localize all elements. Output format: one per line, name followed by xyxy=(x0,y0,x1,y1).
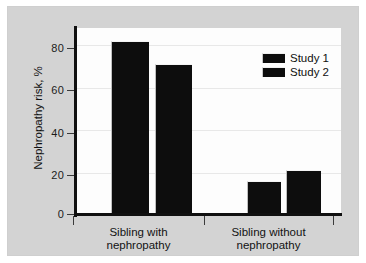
y-tick-label-0: 0 xyxy=(24,208,64,220)
chart-figure: Study 1 Study 2 80 60 40 20 xyxy=(0,0,366,263)
x-category-label-line-2: nephropathy xyxy=(204,239,333,252)
bar-study2-sibling-without-nephropathy xyxy=(286,170,321,215)
y-tick-mark-60 xyxy=(67,90,74,91)
legend-label-study-1: Study 1 xyxy=(290,52,329,64)
x-category-label-line-2: nephropathy xyxy=(73,239,204,252)
y-tick-label-40: 40 xyxy=(24,127,64,139)
y-axis-title: Nephropathy risk, % xyxy=(32,48,44,188)
x-axis-line xyxy=(74,213,342,216)
figure-panel: Study 1 Study 2 80 60 40 20 xyxy=(8,7,358,255)
x-category-label-line-1: Sibling without xyxy=(204,226,333,239)
legend-item-study-2: Study 2 xyxy=(262,66,338,78)
legend-swatch-study-1 xyxy=(262,53,285,63)
x-tick-mark-right xyxy=(333,216,334,225)
legend-swatch-study-2 xyxy=(262,67,285,77)
y-tick-label-80: 80 xyxy=(24,42,64,54)
plot-area: Study 1 Study 2 xyxy=(76,28,341,215)
y-tick-mark-40 xyxy=(67,133,74,134)
bar-study1-sibling-with-nephropathy xyxy=(111,41,149,215)
y-tick-mark-80 xyxy=(67,48,74,49)
x-category-label-sibling-without-nephropathy: Sibling without nephropathy xyxy=(204,226,333,252)
y-tick-label-20: 20 xyxy=(24,169,64,181)
x-tick-mark-left xyxy=(73,216,74,225)
x-category-label-sibling-with-nephropathy: Sibling with nephropathy xyxy=(73,226,204,252)
legend-label-study-2: Study 2 xyxy=(290,66,329,78)
chart-legend: Study 1 Study 2 xyxy=(262,52,338,84)
y-tick-mark-20 xyxy=(67,175,74,176)
bar-study2-sibling-with-nephropathy xyxy=(155,64,192,215)
x-category-label-line-1: Sibling with xyxy=(73,226,204,239)
y-tick-label-60: 60 xyxy=(24,84,64,96)
legend-item-study-1: Study 1 xyxy=(262,52,338,64)
bar-study1-sibling-without-nephropathy xyxy=(247,181,281,215)
y-tick-mark-0 xyxy=(67,214,74,215)
y-axis-line xyxy=(74,26,77,217)
x-tick-mark-middle xyxy=(204,216,205,225)
